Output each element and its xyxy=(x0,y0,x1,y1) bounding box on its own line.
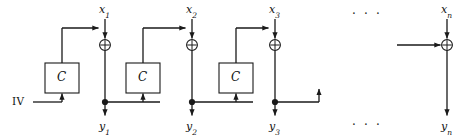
ellipsis-top: · · · xyxy=(352,8,382,20)
ellipsis-bottom: · · · xyxy=(352,119,382,131)
stage-n-group xyxy=(397,19,452,116)
label-output-y1: y1 xyxy=(99,121,110,135)
label-cipher-block-2: C xyxy=(138,71,147,83)
label-input-x2: x2 xyxy=(186,4,197,18)
label-output-y3: y3 xyxy=(269,121,280,135)
cipher-block-chaining-diagram: x1 x2 x3 xn y1 y2 y3 yn C C C IV · · · ·… xyxy=(0,0,470,140)
label-input-x1: x1 xyxy=(99,4,110,18)
label-output-y2: y2 xyxy=(186,121,197,135)
label-cipher-block-1: C xyxy=(57,71,66,83)
label-input-xn: xn xyxy=(441,4,452,18)
label-output-yn: yn xyxy=(441,121,452,135)
stage-3-group xyxy=(219,19,319,116)
label-input-x3: x3 xyxy=(269,4,280,18)
label-iv: IV xyxy=(12,96,24,107)
label-cipher-block-3: C xyxy=(231,71,240,83)
